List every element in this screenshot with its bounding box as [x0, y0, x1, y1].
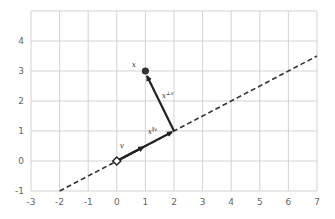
- x-axis-ticks: -3 -2 -1 0 1 2 3 4 5 6 7: [27, 197, 320, 207]
- x-tick: -3: [27, 197, 36, 207]
- y-tick: 1: [18, 126, 24, 136]
- vector-projection-diagram: 4 3 2 1 0 -1 -3 -2 -1 0 1 2 3 4 5 6 7 x …: [0, 0, 335, 219]
- label-x-parallel-sup: ∥v: [152, 126, 157, 132]
- span-line: [60, 56, 317, 191]
- label-x: x: [132, 61, 136, 69]
- y-tick: 4: [18, 36, 24, 46]
- x-tick: 6: [286, 197, 292, 207]
- y-tick: 3: [18, 66, 24, 76]
- origin-marker: [113, 157, 121, 165]
- x-tick: 4: [228, 197, 234, 207]
- point-x: [142, 67, 149, 74]
- x-tick: 1: [143, 197, 149, 207]
- label-x-parallel: x∥v: [148, 126, 157, 136]
- y-tick: 0: [18, 156, 24, 166]
- x-tick: 2: [171, 197, 177, 207]
- x-tick: -1: [84, 197, 93, 207]
- y-tick: 2: [18, 96, 24, 106]
- vector-x-perp: [147, 76, 174, 131]
- y-tick: -1: [15, 186, 24, 196]
- grid: [31, 11, 317, 191]
- x-tick: 0: [114, 197, 120, 207]
- x-tick: 3: [200, 197, 206, 207]
- x-tick: 5: [257, 197, 263, 207]
- label-x-perp-sup: ⊥v: [166, 90, 174, 96]
- x-tick: 7: [314, 197, 320, 207]
- y-axis-ticks: 4 3 2 1 0 -1: [15, 36, 24, 196]
- label-x-perp: x⊥v: [162, 90, 174, 100]
- x-tick: -2: [55, 197, 64, 207]
- label-v: v: [120, 142, 124, 150]
